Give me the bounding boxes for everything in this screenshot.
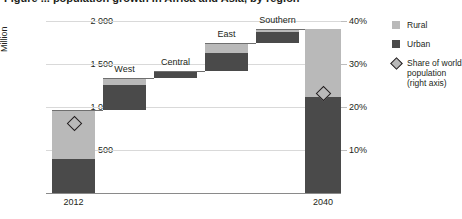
legend: Rural Urban Share of world population (r…: [392, 20, 462, 97]
connector-east-southern: [205, 43, 256, 44]
right-axis-tick-40: 40%: [349, 16, 367, 26]
connector-southern-2040: [256, 29, 305, 30]
legend-item-rural[interactable]: Rural: [392, 20, 462, 30]
legend-label-urban: Urban: [407, 39, 462, 49]
legend-diamond-marker-icon: [390, 57, 403, 70]
bar-2040-urban-segment: [305, 97, 341, 193]
x-axis-label-2040: 2040: [305, 197, 341, 207]
connector-2012-west: [52, 110, 103, 111]
right-axis-tick-mark-40: [341, 21, 347, 22]
bar-central[interactable]: [154, 71, 197, 78]
bar-east-urban-segment: [205, 53, 248, 71]
bar-southern[interactable]: [256, 29, 299, 43]
bar-label-central: Central: [154, 57, 197, 67]
legend-label-share-line3: (right axis): [407, 78, 462, 88]
gridline-1000: [46, 107, 341, 108]
bar-west[interactable]: [103, 78, 146, 110]
legend-swatch-rural-icon: [392, 21, 400, 29]
bar-label-east: East: [205, 29, 248, 39]
legend-label-share-line2: population: [407, 68, 462, 78]
right-axis-tick-20: 20%: [349, 102, 367, 112]
plot-area: West Central East Southern 2012 2040: [46, 21, 341, 193]
legend-swatch-urban-icon: [392, 40, 400, 48]
legend-label-rural: Rural: [407, 20, 462, 30]
bar-label-southern: Southern: [249, 15, 306, 25]
legend-item-urban[interactable]: Urban: [392, 39, 462, 49]
x-axis-label-2012: 2012: [52, 197, 95, 207]
bar-2012-urban-segment: [52, 159, 95, 193]
right-axis-tick-30: 30%: [349, 59, 367, 69]
bar-east-rural-segment: [205, 43, 248, 53]
axis-baseline: [46, 193, 341, 194]
right-axis-tick-10: 10%: [349, 145, 367, 155]
right-axis-tick-mark-20: [341, 107, 347, 108]
bar-label-west: West: [103, 64, 146, 74]
legend-label-share-line1: Share of world: [407, 58, 462, 68]
legend-item-share[interactable]: Share of world population (right axis): [392, 58, 462, 88]
bar-southern-urban-segment: [256, 32, 299, 43]
bar-west-rural-segment: [103, 78, 146, 85]
bar-east[interactable]: [205, 43, 248, 71]
bar-west-urban-segment: [103, 85, 146, 110]
bar-2040[interactable]: [305, 29, 341, 193]
chart-figure: Figure ... population growth in Africa a…: [0, 0, 462, 219]
bar-central-urban-segment: [154, 72, 197, 78]
connector-central-east: [154, 71, 205, 72]
connector-west-central: [103, 78, 154, 79]
right-axis-tick-mark-30: [341, 64, 347, 65]
right-axis-tick-mark-10: [341, 150, 347, 151]
